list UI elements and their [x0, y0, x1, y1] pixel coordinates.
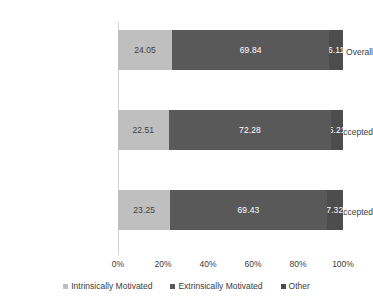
bar-segment-other: 7.32 [327, 190, 343, 230]
bar-segment-extrinsically-motivated: 72.28 [169, 110, 332, 150]
bar-row: 22.51 72.28 5.21 [118, 110, 343, 150]
bar-value-label: 23.25 [133, 206, 155, 215]
bar-value-label: 6.11 [329, 46, 343, 55]
bar-segment-extrinsically-motivated: 69.84 [172, 30, 329, 70]
x-tick-0: 0% [112, 259, 124, 269]
legend-swatch-icon [170, 284, 175, 289]
bar-value-label: 72.28 [239, 126, 261, 135]
legend-swatch-icon [281, 284, 286, 289]
legend-swatch-icon [63, 284, 68, 289]
x-tick-40: 40% [199, 259, 216, 269]
x-axis-tick-labels: 0% 20% 40% 60% 80% 100% [118, 259, 343, 273]
bar-segment-intrinsically-motivated: 23.25 [118, 190, 170, 230]
bar-segment-other: 5.21 [331, 110, 343, 150]
bar-segment-other: 6.11 [329, 30, 343, 70]
x-tick-20: 20% [154, 259, 171, 269]
bar-row: 23.25 69.43 7.32 [118, 190, 343, 230]
legend-label: Other [289, 282, 310, 291]
x-tick-60: 60% [244, 259, 261, 269]
legend-item-intrinsically-motivated[interactable]: Intrinsically Motivated [63, 282, 152, 291]
stacked-bar-chart: Overall Other School Accepted McMaster A… [0, 0, 373, 306]
bar-value-label: 7.32 [327, 206, 343, 215]
bar-row: 24.05 69.84 6.11 [118, 30, 343, 70]
bar-value-label: 69.84 [240, 46, 262, 55]
bar-value-label: 22.51 [132, 126, 154, 135]
bar-value-label: 69.43 [238, 206, 260, 215]
chart-legend: Intrinsically Motivated Extrinsically Mo… [0, 282, 373, 291]
bar-segment-intrinsically-motivated: 22.51 [118, 110, 169, 150]
bar-segment-intrinsically-motivated: 24.05 [118, 30, 172, 70]
bar-value-label: 24.05 [134, 46, 156, 55]
plot-area: 24.05 69.84 6.11 22.51 72.28 5.21 23 [118, 22, 343, 255]
bar-value-label: 5.21 [331, 126, 343, 135]
x-tick-100: 100% [332, 259, 354, 269]
legend-label: Extrinsically Motivated [178, 282, 262, 291]
x-tick-80: 80% [289, 259, 306, 269]
legend-label: Intrinsically Motivated [71, 282, 152, 291]
legend-item-extrinsically-motivated[interactable]: Extrinsically Motivated [170, 282, 262, 291]
legend-item-other[interactable]: Other [281, 282, 310, 291]
bar-segment-extrinsically-motivated: 69.43 [170, 190, 326, 230]
